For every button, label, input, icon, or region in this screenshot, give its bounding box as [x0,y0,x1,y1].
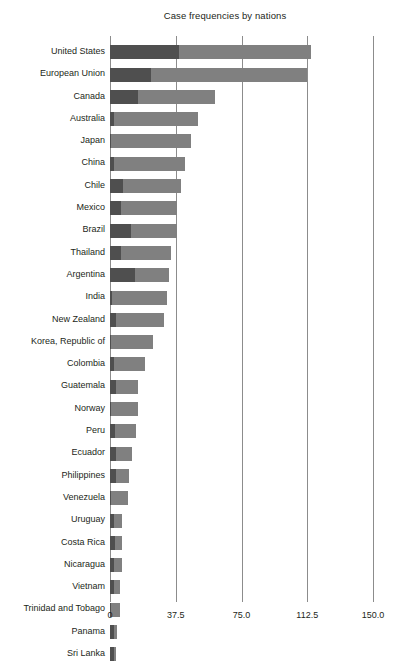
bar-segment-1 [110,45,179,59]
category-label: Japan [0,135,105,145]
bar-segment-2 [138,90,215,104]
chart-row: United States [0,42,402,64]
category-label: India [0,291,105,301]
stacked-bar[interactable] [110,291,167,305]
chart-row: India [0,287,402,309]
bar-segment-2 [114,580,120,594]
bar-segment-2 [115,536,121,550]
stacked-bar[interactable] [110,447,132,461]
stacked-bar[interactable] [110,357,145,371]
chart-row: Australia [0,109,402,131]
stacked-bar[interactable] [110,380,138,394]
bar-segment-2 [111,402,137,416]
x-axis: 037.575.0112.5150.0 [0,604,402,634]
category-label: European Union [0,68,105,78]
stacked-bar[interactable] [110,647,116,661]
category-label: Canada [0,91,105,101]
chart-row: China [0,153,402,175]
x-tick-label: 112.5 [296,610,318,620]
bar-segment-2 [121,246,172,260]
category-label: Vietnam [0,581,105,591]
bar-segment-2 [111,491,127,505]
bar-segment-2 [114,357,146,371]
category-label: Australia [0,113,105,123]
stacked-bar[interactable] [110,313,164,327]
stacked-bar[interactable] [110,335,153,349]
category-label: Thailand [0,247,105,257]
category-label: Korea, Republic of [0,336,105,346]
chart-row: Thailand [0,243,402,265]
chart-row: New Zealand [0,310,402,332]
stacked-bar[interactable] [110,68,307,82]
bar-segment-2 [116,447,132,461]
bar-segment-2 [116,380,138,394]
stacked-bar[interactable] [110,402,138,416]
bar-segment-2 [116,313,165,327]
stacked-bar[interactable] [110,424,136,438]
bar-segment-2 [123,179,181,193]
category-label: Sri Lanka [0,648,105,658]
category-label: New Zealand [0,314,105,324]
bar-segment-2 [111,335,153,349]
category-label: Mexico [0,202,105,212]
stacked-bar[interactable] [110,536,122,550]
bar-segment-2 [135,268,169,282]
category-label: Colombia [0,358,105,368]
bar-segment-1 [110,224,131,238]
bar-segment-2 [131,224,177,238]
chart-row: Philippines [0,466,402,488]
stacked-bar[interactable] [110,90,215,104]
chart-row: Chile [0,176,402,198]
chart-row: Ecuador [0,443,402,465]
chart-row: Argentina [0,265,402,287]
bar-segment-2 [114,558,122,572]
stacked-bar[interactable] [110,179,181,193]
stacked-bar[interactable] [110,558,122,572]
stacked-bar[interactable] [110,157,185,171]
stacked-bar[interactable] [110,268,169,282]
chart-row: European Union [0,64,402,86]
chart-row: Guatemala [0,376,402,398]
chart-row: Venezuela [0,488,402,510]
bar-segment-1 [110,68,151,82]
stacked-bar[interactable] [110,491,128,505]
category-label: Chile [0,180,105,190]
x-tick-label: 75.0 [233,610,251,620]
bar-segment-2 [112,291,167,305]
category-label: Ecuador [0,447,105,457]
category-label: Brazil [0,224,105,234]
bar-segment-1 [110,90,138,104]
category-label: Costa Rica [0,537,105,547]
chart-row: Vietnam [0,577,402,599]
stacked-bar[interactable] [110,580,120,594]
bar-segment-2 [114,112,197,126]
stacked-bar[interactable] [110,112,198,126]
bar-segment-2 [116,469,129,483]
stacked-bar[interactable] [110,246,171,260]
bar-segment-2 [121,201,178,215]
category-label: Argentina [0,269,105,279]
chart-row: Sri Lanka [0,644,402,665]
chart-row: Colombia [0,354,402,376]
category-label: Nicaragua [0,559,105,569]
category-label: Uruguay [0,514,105,524]
stacked-bar[interactable] [110,224,177,238]
stacked-bar[interactable] [110,201,177,215]
category-label: United States [0,46,105,56]
bar-segment-1 [110,268,135,282]
bar-segment-2 [114,157,186,171]
bar-segment-2 [179,45,311,59]
stacked-bar[interactable] [110,469,129,483]
chart-row: Nicaragua [0,555,402,577]
x-tick-label: 37.5 [167,610,185,620]
chart-row: Costa Rica [0,533,402,555]
category-label: Guatemala [0,380,105,390]
stacked-bar[interactable] [110,45,311,59]
x-tick-label: 150.0 [362,610,385,620]
chart-rows: United StatesEuropean UnionCanadaAustral… [0,42,402,665]
bar-segment-1 [110,179,123,193]
bar-segment-2 [115,424,136,438]
chart-row: Japan [0,131,402,153]
stacked-bar[interactable] [110,134,191,148]
stacked-bar[interactable] [110,514,122,528]
